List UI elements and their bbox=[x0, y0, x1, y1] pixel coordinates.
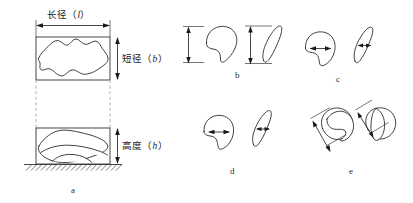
height-dimension bbox=[115, 128, 120, 164]
minor-diameter-dimension bbox=[115, 37, 120, 80]
panel-e-group bbox=[311, 100, 396, 152]
panel-c-group bbox=[305, 27, 372, 66]
figure-root: 长径（l） 短径（b） 高度（h） a b c d e bbox=[0, 0, 413, 203]
panel-e-letter: e bbox=[349, 167, 353, 176]
panel-a-letter: a bbox=[71, 186, 75, 195]
major-diameter-dimension bbox=[36, 20, 110, 37]
major-diameter-label: 长径（l） bbox=[47, 10, 91, 21]
panel-b-shape-left bbox=[206, 26, 236, 62]
ground-hatching bbox=[26, 165, 122, 171]
panel-d-group bbox=[204, 111, 271, 150]
panel-a-group bbox=[24, 20, 122, 171]
ground-support bbox=[24, 165, 122, 171]
minor-diameter-label: 短径（b） bbox=[122, 54, 168, 65]
height-label: 高度（h） bbox=[122, 141, 168, 152]
panel-b-dimension-left bbox=[183, 27, 204, 64]
panel-c-letter: c bbox=[336, 75, 340, 84]
particle-plan-outline bbox=[38, 39, 108, 76]
panel-b-letter: b bbox=[235, 71, 240, 80]
panel-d-letter: d bbox=[230, 167, 235, 176]
panel-b-shape-right bbox=[263, 26, 282, 62]
panel-b-group bbox=[183, 26, 282, 65]
